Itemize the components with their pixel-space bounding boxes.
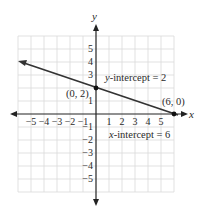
svg-text:5: 5 xyxy=(88,43,93,54)
y-axis-up-arrow-icon xyxy=(93,24,99,31)
svg-text:−3: −3 xyxy=(82,147,93,158)
svg-text:1: 1 xyxy=(88,95,93,106)
x-tick-labels: −5 −4 −3 −2 −1 1 2 3 4 5 xyxy=(26,116,164,127)
svg-text:3: 3 xyxy=(88,69,93,80)
svg-text:4: 4 xyxy=(88,56,93,67)
point-y-intercept xyxy=(94,86,99,91)
svg-text:3: 3 xyxy=(133,116,138,127)
svg-text:−5: −5 xyxy=(26,116,37,127)
x-axis-left-arrow-icon xyxy=(10,111,17,117)
svg-text:−4: −4 xyxy=(82,160,93,171)
y-axis-label: y xyxy=(91,10,97,22)
coordinate-plane: y x −5 −4 −3 −2 −1 1 2 3 4 5 5 4 3 1 −1 … xyxy=(0,0,199,217)
svg-text:4: 4 xyxy=(146,116,151,127)
svg-text:−4: −4 xyxy=(39,116,50,127)
line-arrow-icon xyxy=(18,60,27,66)
x-axis-right-arrow-icon xyxy=(181,111,188,117)
x-axis-label: x xyxy=(188,108,194,120)
svg-text:−3: −3 xyxy=(52,116,63,127)
point-label-x-intercept: (6, 0) xyxy=(162,96,185,108)
svg-text:−1: −1 xyxy=(82,121,93,132)
y-intercept-annotation: y-intercept = 2 xyxy=(104,72,166,83)
point-label-y-intercept: (0, 2) xyxy=(66,88,89,100)
svg-text:−2: −2 xyxy=(65,116,76,127)
svg-text:1: 1 xyxy=(107,116,112,127)
svg-text:−5: −5 xyxy=(82,173,93,184)
svg-text:2: 2 xyxy=(120,116,125,127)
svg-text:5: 5 xyxy=(159,116,164,127)
y-axis-down-arrow-icon xyxy=(93,199,99,206)
point-x-intercept xyxy=(172,112,177,117)
x-intercept-annotation: x-intercept = 6 xyxy=(108,129,170,140)
svg-text:−2: −2 xyxy=(82,134,93,145)
